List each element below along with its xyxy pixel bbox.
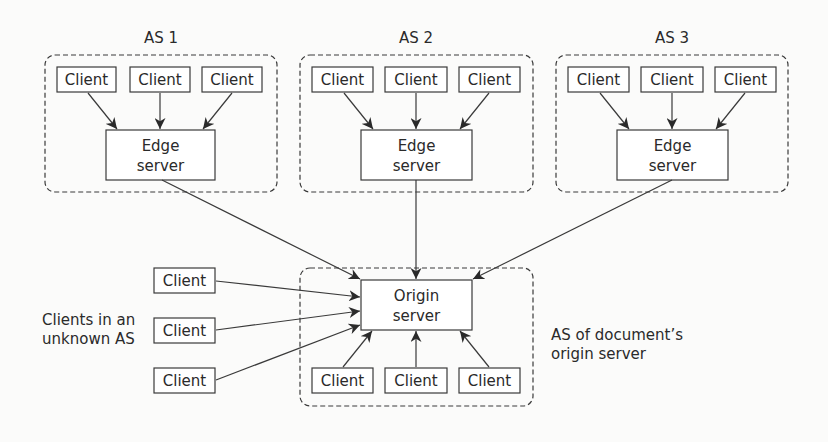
as3-client-1: Client [568, 67, 629, 92]
unknown-as-label-line1: Clients in an [42, 311, 135, 329]
arrow-icon [216, 281, 360, 297]
as3-label: AS 3 [655, 29, 689, 47]
client-label: Client [65, 71, 109, 89]
as1-client-3: Client [202, 67, 262, 92]
as1-client-2: Client [130, 67, 190, 92]
origin-as-label-line1: AS of document’s [551, 326, 683, 344]
edge-server-label-line2: server [649, 157, 697, 175]
as1-group: AS 1 Client Client Client Edge server [45, 29, 277, 192]
cdn-diagram: AS 1 Client Client Client Edge server AS… [0, 0, 828, 442]
unknown-client-2: Client [154, 318, 215, 343]
client-label: Client [321, 71, 365, 89]
client-label: Client [394, 71, 438, 89]
as2-group: AS 2 Client Client Client Edge server [300, 29, 533, 192]
as3-group: AS 3 Client Client Client Edge server [556, 29, 788, 192]
as3-edge-server: Edge server [617, 130, 728, 180]
origin-server-label-line1: Origin [394, 287, 439, 305]
client-label: Client [577, 71, 621, 89]
client-label: Client [468, 71, 512, 89]
client-label: Client [724, 71, 768, 89]
arrow-icon [460, 331, 489, 367]
arrow-icon [600, 93, 629, 129]
edge-server-label-line1: Edge [398, 137, 436, 155]
arrow-icon [473, 180, 672, 279]
arrow-icon [88, 93, 117, 129]
arrow-icon [344, 93, 373, 129]
client-label: Client [163, 322, 207, 340]
client-label: Client [468, 372, 512, 390]
as1-client-1: Client [57, 67, 116, 92]
unknown-client-3: Client [154, 368, 215, 393]
arrow-icon [716, 93, 745, 129]
client-label: Client [138, 71, 182, 89]
unknown-as-label-line2: unknown AS [42, 330, 135, 348]
as3-client-2: Client [641, 67, 703, 92]
edge-server-label-line2: server [137, 157, 185, 175]
client-label: Client [650, 71, 694, 89]
edge-server-label-line1: Edge [142, 137, 180, 155]
origin-as-client-3: Client [459, 368, 520, 393]
client-label: Client [163, 372, 207, 390]
arrow-icon [216, 311, 360, 330]
origin-as-group: Origin server Client Client Client AS of… [300, 268, 683, 406]
as2-client-1: Client [312, 67, 373, 92]
client-label: Client [163, 272, 207, 290]
client-label: Client [394, 372, 438, 390]
as1-edge-server: Edge server [106, 130, 215, 180]
arrow-icon [162, 180, 360, 279]
origin-server-label-line2: server [393, 307, 441, 325]
client-label: Client [210, 71, 254, 89]
as2-edge-server: Edge server [361, 130, 472, 180]
arrow-icon [343, 331, 372, 367]
origin-as-client-1: Client [312, 368, 373, 393]
edge-server-label-line2: server [393, 157, 441, 175]
as1-label: AS 1 [144, 29, 178, 47]
as2-client-2: Client [385, 67, 447, 92]
origin-as-label-line2: origin server [551, 345, 647, 363]
unknown-client-1: Client [154, 268, 215, 293]
as2-label: AS 2 [399, 29, 433, 47]
as3-client-3: Client [715, 67, 776, 92]
client-label: Client [321, 372, 365, 390]
arrow-icon [203, 93, 232, 129]
arrow-icon [460, 93, 489, 129]
origin-as-client-2: Client [385, 368, 447, 393]
as2-client-3: Client [459, 67, 520, 92]
edge-server-label-line1: Edge [654, 137, 692, 155]
origin-server: Origin server [361, 280, 472, 330]
